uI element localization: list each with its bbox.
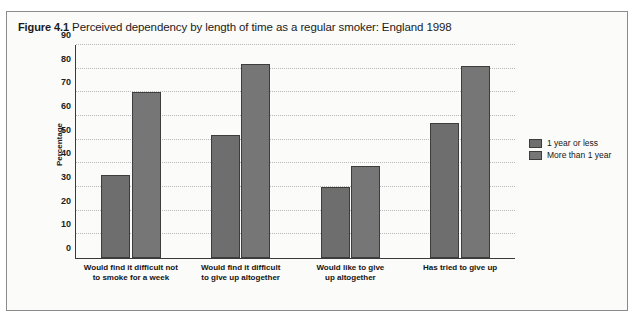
y-axis-tick-label: 90 [61, 30, 71, 40]
bar-group [186, 45, 296, 258]
bar-group [76, 45, 186, 258]
y-axis-tick-label: 80 [61, 54, 71, 64]
y-axis-tick-label: 0 [66, 243, 71, 253]
y-axis-tick-label: 20 [61, 196, 71, 206]
bar[interactable] [101, 175, 130, 258]
chart-plot-region: Percentage 0102030405060708090 Would fin… [47, 45, 515, 285]
bar[interactable] [132, 92, 161, 258]
y-axis-tick-label: 70 [61, 77, 71, 87]
legend-item[interactable]: More than 1 year [529, 150, 611, 160]
x-axis-category-label: Would like to give up altogether [296, 263, 406, 283]
x-axis-category-label: Has tried to give up [405, 263, 515, 273]
chart-legend: 1 year or lessMore than 1 year [529, 138, 611, 162]
bar[interactable] [321, 187, 350, 258]
y-axis-tick-label: 60 [61, 101, 71, 111]
plot-area: 0102030405060708090 Would find it diffic… [75, 45, 515, 259]
legend-item[interactable]: 1 year or less [529, 138, 611, 148]
legend-label: More than 1 year [547, 150, 611, 160]
bar[interactable] [211, 135, 240, 258]
legend-swatch [529, 139, 542, 148]
bar-group [405, 45, 515, 258]
figure-title-text: Perceived dependency by length of time a… [72, 21, 452, 33]
y-axis-tick-label: 10 [61, 219, 71, 229]
bar[interactable] [241, 64, 270, 258]
bar[interactable] [461, 66, 490, 258]
bars-layer [76, 45, 515, 258]
x-axis-category-label: Would find it difficult not to smoke for… [76, 263, 186, 283]
bar[interactable] [351, 166, 380, 258]
figure-title: Figure 4.1 Perceived dependency by lengt… [18, 21, 452, 33]
figure-panel: Figure 4.1 Perceived dependency by lengt… [6, 11, 628, 311]
y-axis-tick-label: 30 [61, 172, 71, 182]
y-axis-tick-label: 40 [61, 148, 71, 158]
bar[interactable] [430, 123, 459, 258]
y-axis-tick-label: 50 [61, 125, 71, 135]
legend-swatch [529, 151, 542, 160]
x-axis-category-label: Would find it difficult to give up altog… [186, 263, 296, 283]
legend-label: 1 year or less [547, 138, 598, 148]
bar-group [296, 45, 406, 258]
